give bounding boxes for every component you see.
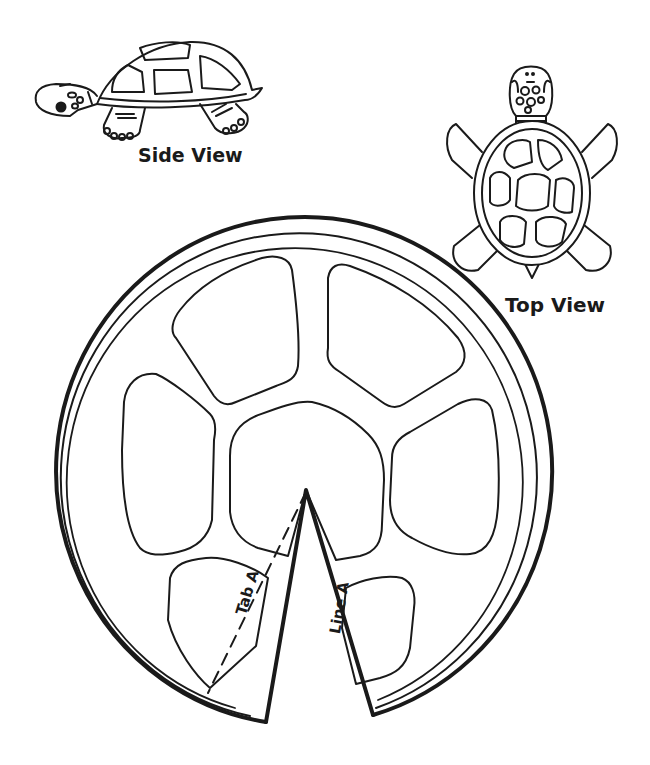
top-view-label: Top View	[505, 293, 605, 317]
shell-inner-rim-2	[67, 248, 523, 708]
side-view-label: Side View	[138, 144, 243, 166]
line-a-cut	[266, 490, 373, 722]
shell-template	[56, 217, 552, 722]
shell-outer-rim	[56, 217, 552, 722]
shell-inner-rim-1	[61, 233, 537, 716]
diagram-canvas	[0, 0, 650, 765]
top-view-turtle-icon	[447, 67, 617, 279]
side-view-turtle-icon	[36, 42, 262, 140]
tab-a-fold-line	[208, 492, 306, 693]
